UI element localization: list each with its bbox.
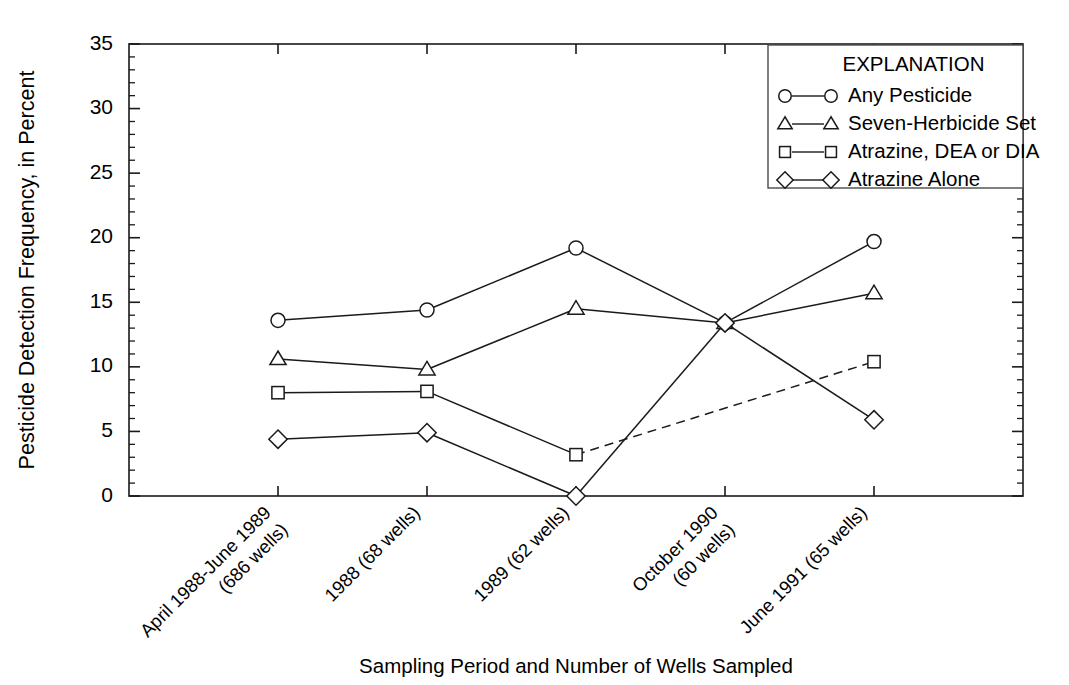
x-tick-labels: April 1988-June 1989(686 wells)1988 (68 …: [136, 502, 871, 658]
series-segment: [576, 323, 725, 496]
y-tick-label: 15: [90, 289, 113, 312]
y-tick-label: 35: [90, 31, 113, 54]
triangle-marker: [568, 301, 584, 315]
series-diamond: [269, 314, 883, 505]
x-tick-label: 1989 (62 wells): [469, 502, 573, 606]
x-tick-label-line: June 1991 (65 wells): [735, 502, 871, 638]
series-segment: [278, 359, 427, 369]
series-triangle: [270, 285, 882, 375]
x-tick-label-line: 1988 (68 wells): [320, 502, 424, 606]
data-series-group: [269, 235, 883, 506]
series-segment: [725, 323, 874, 420]
y-tick-label: 25: [90, 160, 113, 183]
series-segment: [278, 433, 427, 439]
x-tick-label: April 1988-June 1989(686 wells): [136, 502, 292, 658]
series-segment: [576, 362, 874, 455]
y-tick-label: 0: [101, 483, 113, 506]
diamond-marker: [865, 411, 883, 429]
series-segment: [576, 248, 725, 323]
square-marker: [780, 147, 791, 158]
triangle-marker: [866, 285, 882, 299]
series-segment: [427, 433, 576, 496]
legend[interactable]: EXPLANATIONAny PesticideSeven-Herbicide …: [768, 45, 1040, 190]
circle-marker: [867, 235, 881, 249]
series-segment: [427, 248, 576, 310]
triangle-marker: [419, 361, 435, 375]
legend-label: Any Pesticide: [848, 83, 972, 106]
y-tick-label: 20: [90, 224, 113, 247]
series-segment: [427, 309, 576, 370]
circle-marker: [569, 241, 583, 255]
series-square: [272, 356, 880, 461]
x-tick-label: 1988 (68 wells): [320, 502, 424, 606]
circle-marker: [825, 90, 837, 102]
series-segment: [427, 391, 576, 454]
x-axis-title: Sampling Period and Number of Wells Samp…: [359, 654, 793, 677]
square-marker: [272, 387, 284, 399]
chart-figure: 05101520253035 April 1988-June 1989(686 …: [0, 0, 1069, 685]
y-tick-label: 10: [90, 353, 113, 376]
y-tick-label: 30: [90, 95, 113, 118]
x-tick-label-line: 1989 (62 wells): [469, 502, 573, 606]
square-marker: [570, 449, 582, 461]
triangle-marker: [270, 351, 286, 365]
square-marker: [826, 147, 837, 158]
legend-label: Seven-Herbicide Set: [848, 111, 1036, 134]
square-marker: [421, 385, 433, 397]
legend-label: Atrazine, DEA or DIA: [848, 139, 1040, 162]
y-tick-label: 5: [101, 418, 113, 441]
circle-marker: [420, 303, 434, 317]
diamond-marker: [418, 424, 436, 442]
pesticide-detection-frequency-line-chart: 05101520253035 April 1988-June 1989(686 …: [0, 0, 1069, 685]
series-segment: [278, 391, 427, 392]
series-segment: [278, 310, 427, 320]
diamond-marker: [269, 430, 287, 448]
legend-label: Atrazine Alone: [848, 167, 980, 190]
series-segment: [725, 293, 874, 323]
legend-title: EXPLANATION: [842, 52, 984, 75]
square-marker: [868, 356, 880, 368]
y-axis-title: Pesticide Detection Frequency, in Percen…: [15, 71, 39, 470]
x-tick-label: October 1990(60 wells): [628, 502, 739, 613]
circle-marker: [271, 313, 285, 327]
series-segment: [725, 242, 874, 323]
x-tick-label: June 1991 (65 wells): [735, 502, 871, 638]
circle-marker: [779, 90, 791, 102]
series-circle: [271, 235, 881, 330]
